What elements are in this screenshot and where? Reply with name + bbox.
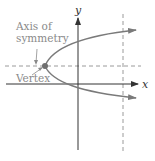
axis-of-symmetry-label-line1: Axis of [15, 20, 53, 32]
vertex-label: Vertex [15, 72, 50, 84]
x-axis-label: x [142, 78, 149, 91]
axis-of-symmetry-label-line2: symmetry [16, 32, 69, 44]
axis-label-pointer-arrowhead-icon [34, 60, 38, 65]
parabola-diagram: Axis of symmetry Vertex x y [0, 0, 155, 161]
y-axis-label: y [74, 4, 82, 17]
parabola-lower-arm [45, 66, 136, 98]
vertex-point [42, 63, 48, 69]
